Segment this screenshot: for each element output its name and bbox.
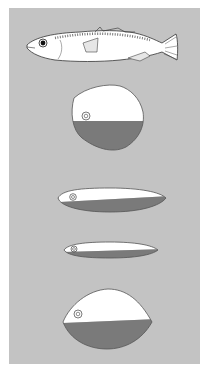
cross-section-deep-body [60,80,160,161]
figure-drawing [0,0,209,372]
fish-side-view [27,27,178,62]
cross-section-elongate-1 [55,185,170,215]
cross-section-elongate-2 [60,238,165,262]
cross-section-oval [55,285,160,355]
